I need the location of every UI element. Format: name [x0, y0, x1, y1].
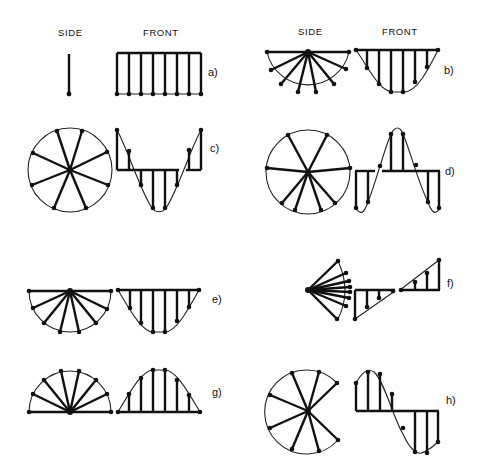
side-view-a	[67, 54, 72, 96]
phasor-diagram: SIDE FRONT SIDE FRONT a)	[0, 0, 479, 476]
side-view-f	[305, 259, 352, 322]
panel-d: d)	[265, 128, 455, 214]
front-view-f	[353, 258, 442, 322]
side-view-d	[265, 130, 353, 214]
side-view-c	[28, 128, 112, 212]
panel-e: e)	[27, 288, 222, 335]
side-view-e	[27, 288, 114, 334]
front-view-c	[115, 128, 204, 212]
side-view-g	[27, 369, 114, 415]
label-c: c)	[210, 142, 219, 154]
label-f: f)	[447, 277, 454, 289]
header-front-left: FRONT	[143, 27, 179, 38]
front-view-b	[354, 48, 441, 95]
header-side-right: SIDE	[298, 26, 323, 37]
panel-h: h)	[265, 370, 456, 456]
label-h: h)	[446, 394, 456, 406]
label-g: g)	[212, 386, 222, 398]
panel-a: a)	[67, 53, 218, 96]
header-side-left: SIDE	[58, 27, 83, 38]
label-d: d)	[445, 165, 455, 177]
front-view-d	[354, 128, 442, 212]
front-view-g	[116, 368, 203, 415]
front-view-a	[115, 53, 204, 96]
panel-b: b)	[265, 48, 454, 95]
side-view-b	[265, 49, 352, 94]
label-a: a)	[208, 66, 218, 78]
panel-g: g)	[27, 368, 222, 415]
front-view-e	[116, 288, 202, 335]
header-front-right: FRONT	[382, 26, 418, 37]
label-b: b)	[444, 64, 454, 76]
panel-c: c)	[28, 128, 219, 212]
label-e: e)	[212, 293, 222, 305]
panel-f: f)	[305, 258, 454, 322]
front-view-h	[354, 370, 441, 456]
side-view-h	[265, 370, 341, 454]
